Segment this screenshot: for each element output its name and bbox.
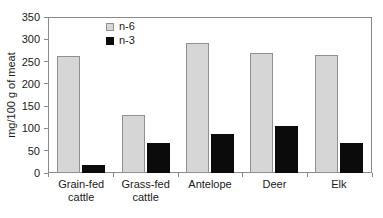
bar-group [307,18,371,173]
y-tick: 200 [22,78,48,90]
legend-item[interactable]: n-6 [106,21,135,32]
x-tick-mark [48,173,49,177]
y-tick: 0 [34,167,48,179]
x-axis-label-line2: cattle [113,191,177,204]
y-tick: 350 [22,11,48,23]
bar-group [178,18,242,173]
x-tick-mark [307,173,308,177]
y-tick-label: 350 [22,11,44,23]
x-axis-label: Grass-fedcattle [113,178,177,204]
y-tick-label: 100 [22,122,44,134]
bar-chart: mg/100 g of meat 350300250200150100500 G… [0,0,383,218]
legend-swatch-icon [106,23,114,31]
bar-group [242,18,306,173]
y-tick: 100 [22,122,48,134]
y-tick-label: 50 [28,145,44,157]
x-axis-label-line1: Antelope [188,178,231,190]
bar-n-3[interactable] [275,126,298,173]
x-tick-mark [113,173,114,177]
y-tick: 50 [28,145,48,157]
x-axis-label-line1: Deer [263,178,287,190]
bar-n-3[interactable] [211,134,234,173]
bars-layer [49,18,371,173]
y-tick: 250 [22,56,48,68]
x-axis-label-line2: cattle [49,191,113,204]
x-axis-label-line1: Elk [331,178,346,190]
bar-n-6[interactable] [315,55,338,173]
x-axis-label: Deer [242,178,306,204]
y-tick-label: 250 [22,56,44,68]
x-axis-label: Grain-fedcattle [49,178,113,204]
x-tick-mark [242,173,243,177]
y-tick-label: 200 [22,78,44,90]
bar-n-6[interactable] [250,53,273,173]
y-tick-label: 150 [22,100,44,112]
y-tick-label: 0 [34,167,44,179]
x-axis-label-line1: Grass-fed [121,178,169,190]
bar-n-3[interactable] [82,165,105,173]
x-axis-label: Elk [307,178,371,204]
x-tick-mark [178,173,179,177]
bar-n-3[interactable] [340,143,363,173]
x-axis-label: Antelope [178,178,242,204]
y-tick-label: 300 [22,33,44,45]
bar-n-6[interactable] [57,56,80,173]
legend-label: n-6 [119,21,135,32]
bar-n-6[interactable] [186,43,209,173]
x-axis-labels: Grain-fedcattleGrass-fedcattleAntelopeDe… [49,178,371,204]
y-tick: 300 [22,33,48,45]
bar-group [49,18,113,173]
bar-n-6[interactable] [122,115,145,173]
legend-label: n-3 [119,35,135,46]
x-tick-mark [372,173,373,177]
y-tick: 150 [22,100,48,112]
x-axis-label-line1: Grain-fed [58,178,104,190]
legend: n-6n-3 [106,21,135,46]
bar-n-3[interactable] [147,143,170,173]
legend-swatch-icon [106,37,114,45]
y-axis-ticks: 350300250200150100500 [0,0,48,218]
legend-item[interactable]: n-3 [106,35,135,46]
